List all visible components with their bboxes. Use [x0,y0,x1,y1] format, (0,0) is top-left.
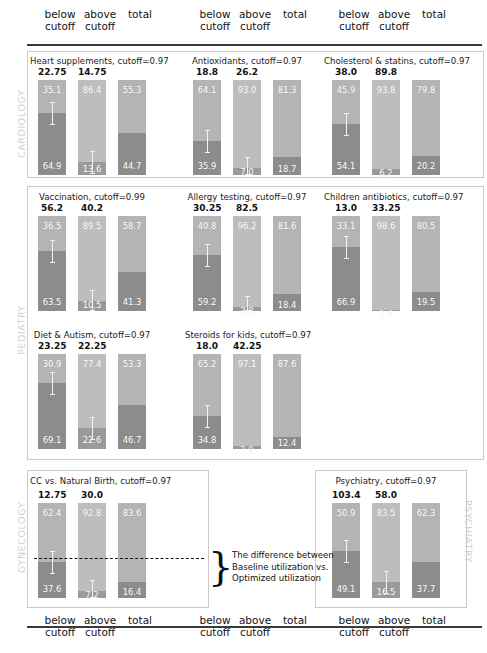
stacked-bar[interactable]: 98.61.4 [372,216,400,311]
stacked-bar[interactable]: 80.519.5 [412,216,440,311]
baseline-difference-dashed-line [34,558,204,559]
column-header-total: total [120,8,160,32]
column-header-below-cutoff: below cutoff [195,8,235,32]
stacked-bar[interactable]: 96.23.8 [233,216,261,311]
error-bar-cap [50,372,55,373]
segment-value-baseline: 6.2 [372,168,400,178]
stacked-bar[interactable]: 35.164.9 [38,80,66,175]
figure-root: below cutoffabove cutofftotalbelow cutof… [0,0,487,653]
error-bar-cap [50,394,55,395]
bar-top-value: 40.2 [78,203,106,213]
segment-value-baseline: 35.9 [193,161,221,171]
bar-top-value: 56.2 [38,203,66,213]
chart-panel: Allergy testing, cutoff=0.9730.2540.859.… [185,192,309,311]
bar-top-value: 58.0 [372,490,400,500]
error-bar-cap [50,573,55,574]
error-bar-cap [245,157,250,158]
segment-value-baseline: 34.8 [193,435,221,445]
stacked-bar[interactable]: 89.510.5 [78,216,106,311]
segment-value-baseline: 41.3 [118,297,146,307]
segment-value-optimized: 77.4 [78,359,106,369]
segment-value-optimized: 89.5 [78,221,106,231]
error-bar-cap [50,262,55,263]
stacked-bar[interactable]: 83.616.4 [118,503,146,598]
bar-top-value: 30.0 [78,490,106,500]
column-header-above-cutoff: above cutoff [374,8,414,32]
section-label-cardiology: CARDIOLOGY [16,90,27,158]
column-header-row-bottom: below cutoffabove cutofftotalbelow cutof… [0,614,487,648]
segment-value-optimized: 87.6 [273,359,301,369]
bar-top-value: 23.25 [38,341,66,351]
error-bar [52,551,53,573]
stacked-bar[interactable]: 40.859.2 [193,216,221,311]
bar-top-value: 33.25 [372,203,400,213]
error-bar [92,417,93,439]
error-bar-cap [245,310,250,311]
segment-value-optimized: 79.8 [412,85,440,95]
stacked-bar[interactable]: 36.563.5 [38,216,66,311]
error-bar-cap [90,417,95,418]
stacked-bar[interactable]: 93.07.0 [233,80,261,175]
error-bar-cap [90,173,95,174]
stacked-bar[interactable]: 33.166.9 [332,216,360,311]
segment-value-optimized: 93.0 [233,85,261,95]
error-bar-cap [50,102,55,103]
column-header-below-cutoff: below cutoff [195,614,235,638]
segment-value-baseline: 37.6 [38,584,66,594]
panel-title: Cholesterol & statins, cutoff=0.97 [324,56,448,66]
segment-value-optimized: 62.3 [412,508,440,518]
error-bar-cap [245,174,250,175]
stacked-bar[interactable]: 79.820.2 [412,80,440,175]
stacked-bar[interactable]: 45.954.1 [332,80,360,175]
bar-top-value: 22.75 [38,67,66,77]
stacked-bar[interactable]: 30.969.1 [38,354,66,449]
stacked-bar[interactable]: 81.618.4 [273,216,301,311]
stacked-bar[interactable]: 93.86.2 [372,80,400,175]
stacked-bar[interactable]: 65.234.8 [193,354,221,449]
panel-title: Children antibiotics, cutoff=0.97 [324,192,448,202]
error-bar [92,580,93,598]
error-bar [52,240,53,262]
segment-value-baseline: 54.1 [332,161,360,171]
segment-value-baseline: 63.5 [38,297,66,307]
stacked-bar[interactable]: 64.135.9 [193,80,221,175]
segment-value-baseline: 49.1 [332,584,360,594]
error-bar [207,405,208,427]
segment-value-optimized: 80.5 [412,221,440,231]
chart-panel: Children antibiotics, cutoff=0.9713.033.… [324,192,448,311]
segment-value-baseline: 46.7 [118,435,146,445]
segment-value-optimized: 36.5 [38,221,66,231]
segment-value-optimized: 50.9 [332,508,360,518]
error-bar [207,130,208,152]
bar-top-value: 42.25 [233,341,261,351]
stacked-bar[interactable]: 86.413.6 [78,80,106,175]
stacked-bar[interactable]: 62.337.7 [412,503,440,598]
section-label-psychiatry: PSYCHIATRY [463,500,474,563]
column-header-below-cutoff: below cutoff [334,8,374,32]
segment-value-optimized: 86.4 [78,85,106,95]
segment-value-optimized: 33.1 [332,221,360,231]
stacked-bar[interactable]: 55.344.7 [118,80,146,175]
panel-title: CC vs. Natural Birth, cutoff=0.97 [30,476,154,486]
chart-panel: Cholesterol & statins, cutoff=0.9738.045… [324,56,448,175]
stacked-bar[interactable]: 97.12.9 [233,354,261,449]
stacked-bar[interactable]: 53.346.7 [118,354,146,449]
segment-value-optimized: 97.1 [233,359,261,369]
error-bar-cap [245,296,250,297]
segment-value-optimized: 81.6 [273,221,301,231]
error-bar [52,102,53,124]
stacked-bar[interactable]: 58.741.3 [118,216,146,311]
segment-value-optimized: 81.3 [273,85,301,95]
error-bar [247,157,248,175]
stacked-bar[interactable]: 92.87.2 [78,503,106,598]
bar-top-value: 18.0 [193,341,221,351]
panel-title: Allergy testing, cutoff=0.97 [185,192,309,202]
segment-value-baseline: 66.9 [332,297,360,307]
stacked-bar[interactable]: 87.612.4 [273,354,301,449]
stacked-bar[interactable]: 62.437.6 [38,503,66,598]
bar-top-value: 103.4 [332,490,360,500]
column-header-total: total [120,614,160,638]
stacked-bar[interactable]: 77.422.6 [78,354,106,449]
stacked-bar[interactable]: 81.318.7 [273,80,301,175]
column-header-above-cutoff: above cutoff [235,8,275,32]
